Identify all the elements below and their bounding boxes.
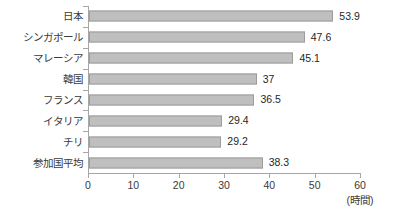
bar-track: 45.1	[89, 53, 410, 64]
bar-value-label: 29.2	[227, 136, 247, 147]
value-axis-tick-label: 20	[173, 180, 185, 191]
value-axis-tick	[269, 173, 270, 178]
value-axis-tick	[315, 173, 316, 178]
value-axis-tick	[179, 173, 180, 178]
bar-row: フランス36.5	[0, 90, 410, 111]
bar	[89, 115, 222, 126]
bar	[89, 32, 305, 43]
category-label: マレーシア	[33, 53, 83, 64]
bar-row: 韓国37	[0, 69, 410, 90]
bar	[89, 74, 257, 85]
category-label: シンガポール	[23, 32, 83, 43]
value-axis-tick-label: 60	[354, 180, 366, 191]
bar-track: 38.3	[89, 157, 410, 168]
category-axis-tick	[83, 69, 88, 70]
value-axis-tick-label: 10	[127, 180, 139, 191]
bar-row: シンガポール47.6	[0, 27, 410, 48]
category-axis-tick	[83, 27, 88, 28]
bar-rows: 日本53.9シンガポール47.6マレーシア45.1韓国37フランス36.5イタリ…	[0, 6, 410, 173]
category-label: 日本	[63, 11, 83, 22]
value-axis-tick	[360, 173, 361, 178]
bar-track: 53.9	[89, 11, 410, 22]
bar	[89, 94, 254, 105]
bar	[89, 136, 221, 147]
bar-value-label: 47.6	[311, 32, 331, 43]
bar-row: 参加国平均38.3	[0, 152, 410, 173]
bar-value-label: 29.4	[228, 116, 248, 127]
category-axis-tick	[83, 90, 88, 91]
plot-area: 日本53.9シンガポール47.6マレーシア45.1韓国37フランス36.5イタリ…	[0, 0, 410, 211]
bar	[89, 11, 333, 22]
bar-value-label: 36.5	[260, 95, 280, 106]
bar-value-label: 53.9	[339, 11, 359, 22]
category-axis-tick	[83, 131, 88, 132]
bar-chart: 日本53.9シンガポール47.6マレーシア45.1韓国37フランス36.5イタリ…	[0, 0, 410, 211]
value-axis-tick	[133, 173, 134, 178]
value-axis-tick-label: 0	[85, 180, 91, 191]
category-axis-tick	[83, 110, 88, 111]
category-axis-tick	[83, 48, 88, 49]
value-axis-tick	[224, 173, 225, 178]
value-axis-tick-label: 50	[309, 180, 321, 191]
axis-unit-label: (時間)	[347, 195, 374, 206]
bar-row: イタリア29.4	[0, 110, 410, 131]
bar-value-label: 37	[263, 74, 275, 85]
bar	[89, 53, 293, 64]
bar-track: 29.2	[89, 136, 410, 147]
category-label: チリ	[63, 136, 83, 147]
bar-row: チリ29.2	[0, 131, 410, 152]
bar-track: 47.6	[89, 32, 410, 43]
bar-row: マレーシア45.1	[0, 48, 410, 69]
value-axis-ticks	[0, 173, 410, 179]
category-label: 韓国	[63, 74, 83, 85]
bar-track: 37	[89, 74, 410, 85]
category-label: 参加国平均	[33, 157, 83, 168]
bar-track: 36.5	[89, 94, 410, 105]
bar-value-label: 45.1	[299, 53, 319, 64]
bar	[89, 157, 263, 168]
bar-row: 日本53.9	[0, 6, 410, 27]
value-axis-tick-label: 40	[263, 180, 275, 191]
category-axis-tick	[83, 6, 88, 7]
value-axis-tick-labels: 0102030405060	[0, 180, 410, 194]
category-label: イタリア	[43, 116, 83, 127]
value-axis-tick	[88, 173, 89, 178]
category-label: フランス	[43, 95, 83, 106]
value-axis-tick-label: 30	[218, 180, 230, 191]
bar-value-label: 38.3	[269, 157, 289, 168]
category-axis-tick	[83, 152, 88, 153]
bar-track: 29.4	[89, 115, 410, 126]
